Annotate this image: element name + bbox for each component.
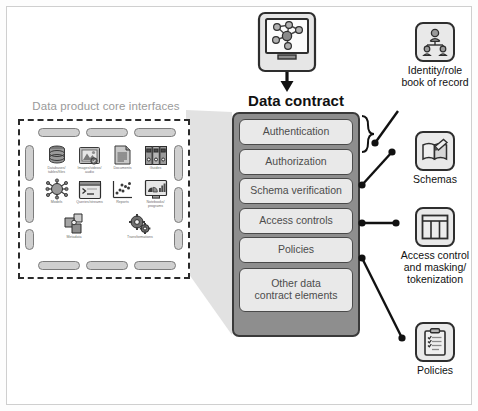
interface-pill-bottom-3 [134,261,176,270]
interface-caption: Notebooks/ programs [141,200,170,208]
right-node-access-control[interactable]: Access control and masking/ tokenization [393,207,477,285]
gears-icon [118,212,162,234]
metadata-icon [52,212,96,234]
interface-pill-top-1 [38,128,80,137]
interface-pill-bottom-2 [86,261,128,270]
right-node-identity[interactable]: Identity/role book of record [396,22,474,89]
right-node-label: Schemas [396,174,474,186]
interface-item-transformations: Transformations [118,212,162,239]
interface-item-models: Models [42,177,71,208]
clipboard-list-icon [415,322,455,362]
interface-icon-row-2: Models Queries/streams [42,177,170,208]
interface-caption: Databases/ tables/files [42,166,71,174]
interface-item-documents: Documents [108,143,137,174]
table-grid-icon [415,207,455,247]
interface-item-queries: Queries/streams [75,177,104,208]
funnel-connector [186,110,236,335]
interface-pill-left-2 [25,187,34,223]
book-pencil-icon [415,131,455,171]
right-node-schemas[interactable]: Schemas [396,131,474,186]
interface-pill-right-3 [174,229,183,250]
interface-pill-top-2 [86,128,128,137]
core-interfaces-title: Data product core interfaces [22,100,190,112]
right-node-label: Identity/role book of record [396,65,474,89]
notebook-icon [141,177,170,199]
interface-pill-bottom-1 [38,261,80,270]
binders-icon [141,143,170,165]
interface-icon-row-1: Databases/ tables/files Images/vi [42,143,170,174]
diagram-canvas: Data product core interfaces [0,0,478,411]
contract-element-access-controls[interactable]: Access controls [239,208,353,234]
interface-pill-right-2 [174,187,183,223]
interface-icon-row-3: Metadata [42,212,170,239]
right-node-label: Policies [396,365,474,377]
image-icon [75,143,104,165]
org-hierarchy-icon [415,22,455,62]
document-icon [108,143,137,165]
contract-element-authorization[interactable]: Authorization [239,149,353,175]
network-graph-monitor-icon [258,12,322,94]
interface-pill-left-1 [25,145,34,181]
interface-caption: Transformations [118,235,162,239]
core-interfaces-box: Databases/ tables/files Images/vi [18,119,190,279]
right-node-label: Access control and masking/ tokenization [393,250,477,285]
interface-item-metadata: Metadata [52,212,96,239]
interface-item-notebooks: Notebooks/ programs [141,177,170,208]
right-node-policies[interactable]: Policies [396,322,474,377]
scatter-icon [108,177,137,199]
contract-element-schema-verification[interactable]: Schema verification [239,178,353,204]
interface-caption: Models [42,200,71,204]
interface-caption: Reports [108,200,137,204]
interface-pill-left-3 [25,229,34,250]
interface-icon-grid: Databases/ tables/files Images/vi [42,143,170,242]
interface-pill-right-1 [174,145,183,181]
terminal-icon [75,177,104,199]
interface-caption: Guides [141,166,170,170]
contract-element-policies[interactable]: Policies [239,237,353,263]
interface-caption: Images/videos/ audio [75,166,104,174]
interface-pill-top-3 [134,128,176,137]
interface-caption: Documents [108,166,137,170]
database-icon [42,143,71,165]
contract-element-authentication[interactable]: Authentication [239,119,353,145]
interface-item-reports: Reports [108,177,137,208]
interface-caption: Metadata [52,235,96,239]
data-contract-stack: Authentication Authorization Schema veri… [232,112,360,337]
contract-element-other[interactable]: Other data contract elements [239,268,353,312]
interface-caption: Queries/streams [75,200,104,204]
interface-item-guides: Guides [141,143,170,174]
model-icon [42,177,71,199]
interface-item-images: Images/videos/ audio [75,143,104,174]
data-contract-title: Data contract [228,92,364,109]
interface-item-database: Databases/ tables/files [42,143,71,174]
